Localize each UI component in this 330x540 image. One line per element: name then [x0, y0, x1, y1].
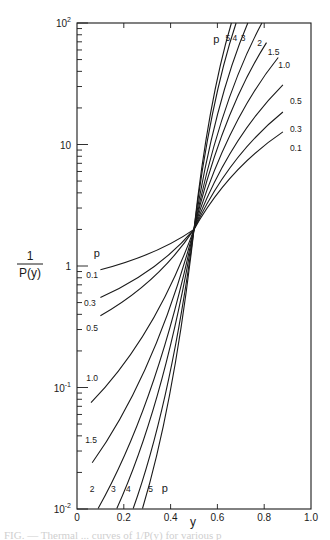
curve-p-4	[133, 23, 236, 509]
chart: 10-210-1110102 00.20.40.60.81.0 p54321.5…	[0, 0, 330, 540]
upper-curve-label: 4	[233, 33, 238, 43]
upper-curve-label: 2	[257, 38, 262, 48]
y-tick-label: 10-1	[54, 381, 71, 394]
x-axis-ticks: 00.20.40.60.81.0	[74, 23, 318, 523]
lower-curve-label: 1.5	[85, 435, 97, 445]
y-tick-label: 102	[56, 16, 71, 29]
lower-curve-label: 0.1	[86, 270, 98, 280]
upper-curve-label: p	[213, 33, 219, 45]
y-tick-label: 1	[65, 261, 71, 272]
y-axis-ticks: 10-210-1110102	[54, 16, 88, 515]
x-tick-label: 0.6	[210, 512, 224, 523]
y-tick-label: 10-2	[54, 502, 71, 515]
lower-curve-label: p	[162, 482, 168, 494]
lower-curve-label: p	[94, 247, 100, 259]
upper-curve-label: 1.5	[268, 47, 280, 57]
x-tick-label: 0.8	[257, 512, 271, 523]
y-axis-label-denominator: P(y)	[19, 266, 41, 280]
x-tick-label: 0	[74, 512, 80, 523]
upper-curve-label: 5	[226, 33, 231, 43]
curves	[91, 23, 283, 509]
curve-p-0_3	[100, 112, 283, 298]
upper-curve-label: 0.3	[290, 124, 302, 134]
upper-curve-label: 0.1	[290, 143, 302, 153]
x-axis-label: y	[190, 515, 196, 529]
curve-p-1_5	[92, 43, 266, 463]
curve-p-0_5	[100, 85, 283, 316]
x-tick-label: 0.2	[117, 512, 131, 523]
lower-curve-label: 1.0	[86, 373, 98, 383]
figure-caption: FIG. — Thermal ... curves of 1/P(y) for …	[4, 529, 326, 540]
lower-curve-label: 4	[126, 484, 131, 494]
x-tick-label: 0.4	[164, 512, 178, 523]
axis-labels: 1 P(y) y	[17, 249, 196, 529]
y-tick-label: 10	[60, 140, 72, 151]
upper-curve-label: 3	[241, 33, 246, 43]
lower-curve-label: 0.5	[86, 323, 98, 333]
y-axis-label-numerator: 1	[27, 249, 34, 263]
curve-p-1_0	[91, 58, 278, 403]
lower-curve-label: 0.3	[84, 298, 96, 308]
lower-curve-label: 2	[90, 484, 95, 494]
lower-curve-label: 5	[148, 484, 153, 494]
curve-p-3	[117, 23, 248, 509]
x-tick-label: 1.0	[304, 512, 318, 523]
upper-curve-label: 1.0	[278, 60, 290, 70]
upper-curve-label: 0.5	[290, 96, 302, 106]
lower-curve-label: 3	[111, 484, 116, 494]
